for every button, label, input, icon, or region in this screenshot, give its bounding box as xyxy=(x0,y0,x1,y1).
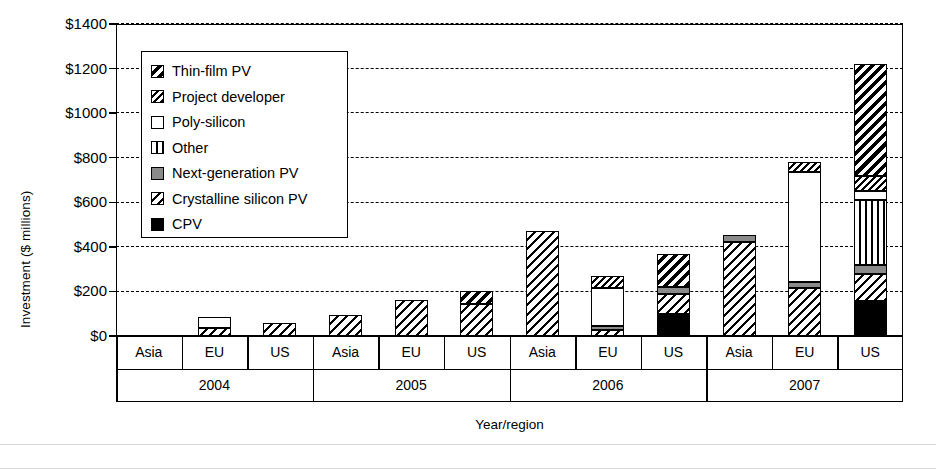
legend-swatch-project-developer-icon xyxy=(151,90,164,103)
category-label: Asia xyxy=(116,344,182,360)
bar-2006-asia xyxy=(526,231,559,336)
bar-segment-project-developer xyxy=(788,162,821,172)
bar-2007-eu xyxy=(788,162,821,336)
legend-item-poly-silicon[interactable]: Poly-silicon xyxy=(151,114,245,130)
bar-2007-asia xyxy=(723,235,756,336)
y-axis-tick-label: $1400 xyxy=(22,15,107,32)
bar-segment-crystalline-silicon-pv xyxy=(460,304,493,336)
legend-swatch-poly-silicon-icon xyxy=(151,116,164,129)
chart-legend: Thin-film PVProject developerPoly-silico… xyxy=(141,51,348,238)
chart-figure: Investment ($ millions) $0$200$400$600$8… xyxy=(0,0,936,469)
category-label: US xyxy=(641,344,707,360)
group-label: 2005 xyxy=(313,377,510,393)
bar-segment-project-developer xyxy=(591,276,624,288)
bar-2004-eu xyxy=(198,317,231,336)
category-label: EU xyxy=(378,344,444,360)
bar-segment-crystalline-silicon-pv xyxy=(395,300,428,336)
legend-item-label: Next-generation PV xyxy=(172,166,299,180)
bar-segment-next-generation-pv xyxy=(788,282,821,288)
bar-segment-poly-silicon xyxy=(198,317,231,328)
bar-2006-eu xyxy=(591,276,624,336)
y-axis-tick-mark xyxy=(109,68,116,70)
category-label: US xyxy=(247,344,313,360)
gridline xyxy=(116,23,903,24)
group-label: 2007 xyxy=(706,377,903,393)
x-axis-title: Year/region xyxy=(116,417,903,432)
bar-segment-crystalline-silicon-pv xyxy=(263,323,296,336)
y-axis-tick-mark xyxy=(109,23,116,25)
legend-item-cpv[interactable]: CPV xyxy=(151,216,202,232)
category-label: EU xyxy=(182,344,248,360)
legend-swatch-cpv-icon xyxy=(151,218,164,231)
bar-segment-thin-film-pv xyxy=(854,64,887,175)
bar-segment-poly-silicon xyxy=(854,191,887,200)
gridline xyxy=(116,246,903,247)
group-label: 2006 xyxy=(510,377,707,393)
bar-segment-crystalline-silicon-pv xyxy=(329,315,362,336)
bar-segment-other xyxy=(854,200,887,265)
bar-segment-crystalline-silicon-pv xyxy=(198,328,231,336)
bar-segment-project-developer xyxy=(854,176,887,192)
y-axis-tick-mark xyxy=(109,157,116,159)
y-axis-tick-mark xyxy=(109,291,116,293)
category-label: EU xyxy=(575,344,641,360)
y-axis-title: Investment ($ millions) xyxy=(18,191,33,328)
legend-swatch-next-generation-pv-icon xyxy=(151,167,164,180)
y-axis-tick-label: $600 xyxy=(22,193,107,210)
bar-segment-poly-silicon xyxy=(788,172,821,282)
y-axis-tick-label: $0 xyxy=(22,327,107,344)
bar-segment-crystalline-silicon-pv xyxy=(526,231,559,336)
category-label: Asia xyxy=(706,344,772,360)
bar-segment-cpv xyxy=(657,314,690,336)
legend-item-label: Other xyxy=(172,141,208,155)
legend-swatch-crystalline-silicon-pv-icon xyxy=(151,192,164,205)
bar-segment-next-generation-pv xyxy=(657,287,690,294)
bar-segment-crystalline-silicon-pv xyxy=(854,274,887,302)
bar-2005-us xyxy=(460,291,493,336)
group-label: 2004 xyxy=(116,377,313,393)
legend-swatch-thin-film-pv-icon xyxy=(151,65,164,78)
legend-item-other[interactable]: Other xyxy=(151,140,208,156)
bar-segment-thin-film-pv xyxy=(460,291,493,303)
legend-item-crystalline-silicon-pv[interactable]: Crystalline silicon PV xyxy=(151,191,307,207)
y-axis-tick-label: $1200 xyxy=(22,60,107,77)
category-label: EU xyxy=(772,344,838,360)
bar-2006-us xyxy=(657,254,690,336)
bar-segment-next-generation-pv xyxy=(854,265,887,274)
legend-item-label: Poly-silicon xyxy=(172,115,245,129)
bar-2005-eu xyxy=(395,300,428,336)
gridline xyxy=(116,291,903,292)
y-axis-tick-mark xyxy=(109,112,116,114)
y-axis-tick-label: $200 xyxy=(22,282,107,299)
y-axis-tick-mark xyxy=(109,246,116,248)
y-axis-tick-label: $1000 xyxy=(22,104,107,121)
y-axis-tick-mark xyxy=(109,202,116,204)
category-label: US xyxy=(444,344,510,360)
bar-segment-next-generation-pv xyxy=(723,235,756,243)
bar-2007-us xyxy=(854,24,887,336)
legend-item-project-developer[interactable]: Project developer xyxy=(151,89,285,105)
bar-segment-poly-silicon xyxy=(591,288,624,326)
legend-item-label: Project developer xyxy=(172,90,285,104)
bar-segment-next-generation-pv xyxy=(591,326,624,330)
bar-segment-cpv xyxy=(854,301,887,336)
category-label: Asia xyxy=(510,344,576,360)
bar-segment-crystalline-silicon-pv xyxy=(657,294,690,314)
bar-segment-thin-film-pv xyxy=(657,254,690,287)
legend-item-label: Thin-film PV xyxy=(172,64,251,78)
y-axis-tick-label: $800 xyxy=(22,149,107,166)
legend-item-thin-film-pv[interactable]: Thin-film PV xyxy=(151,63,251,79)
category-label: Asia xyxy=(313,344,379,360)
bar-segment-crystalline-silicon-pv xyxy=(723,242,756,336)
y-axis-tick-mark xyxy=(109,335,116,337)
category-label: US xyxy=(837,344,903,360)
y-axis-tick-label: $400 xyxy=(22,238,107,255)
legend-item-label: Crystalline silicon PV xyxy=(172,192,307,206)
footer-divider xyxy=(0,444,936,445)
legend-swatch-other-icon xyxy=(151,141,164,154)
bar-segment-crystalline-silicon-pv xyxy=(591,330,624,336)
legend-item-next-generation-pv[interactable]: Next-generation PV xyxy=(151,165,299,181)
bar-2004-us xyxy=(263,323,296,336)
bar-2005-asia xyxy=(329,315,362,336)
legend-item-label: CPV xyxy=(172,217,202,231)
